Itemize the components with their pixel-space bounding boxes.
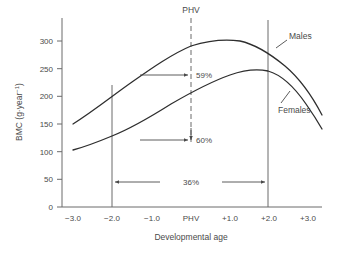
y-tick-label-150: 150: [40, 120, 54, 129]
bmc-developmental-age-chart: 0 50 100 150 200 250 300 −3.0 −2.0 −1.0 …: [0, 0, 337, 262]
females-leader-line: [281, 91, 290, 103]
x-tick-label-plus2: +2.0: [261, 214, 277, 223]
y-tick-label-200: 200: [40, 92, 54, 101]
svg-text:BMC (g·year−1): BMC (g·year−1): [14, 83, 24, 141]
y-axis-title: BMC (g·year−1): [14, 83, 24, 141]
males-series-label-group: Males: [276, 31, 312, 48]
span-label: 36%: [183, 178, 199, 187]
x-tick-label-plus3: +3.0: [300, 214, 316, 223]
females-series-label: Females: [278, 105, 311, 115]
chart-figure: 0 50 100 150 200 250 300 −3.0 −2.0 −1.0 …: [0, 0, 337, 262]
phv-top-label: PHV: [182, 5, 200, 15]
y-axis-title-tail: ): [14, 83, 24, 86]
x-tick-label-plus1: +1.0: [222, 214, 238, 223]
females-gain-annotation: 60%: [140, 128, 212, 145]
x-tick-label-minus2: −2.0: [104, 214, 120, 223]
y-axis-title-main: BMC (g·year: [14, 93, 24, 141]
x-axis-ticks: −3.0 −2.0 −1.0 PHV +1.0 +2.0 +3.0: [65, 214, 316, 223]
males-series-label: Males: [289, 31, 312, 41]
span-annotation: 36%: [115, 178, 265, 187]
males-leader-line: [276, 40, 287, 48]
x-axis-title: Developmental age: [154, 232, 228, 242]
males-gain-annotation: 59%: [140, 71, 212, 80]
y-tick-label-100: 100: [40, 148, 54, 157]
y-tick-label-250: 250: [40, 65, 54, 74]
females-gain-label: 60%: [196, 136, 212, 145]
males-gain-label: 59%: [196, 71, 212, 80]
y-tick-label-0: 0: [49, 203, 54, 212]
y-tick-label-300: 300: [40, 37, 54, 46]
x-tick-label-phv: PHV: [183, 214, 200, 223]
x-tick-label-minus1: −1.0: [144, 214, 160, 223]
y-axis-ticks: 0 50 100 150 200 250 300: [40, 37, 62, 212]
y-tick-label-50: 50: [44, 175, 53, 184]
x-tick-label-minus3: −3.0: [65, 214, 81, 223]
